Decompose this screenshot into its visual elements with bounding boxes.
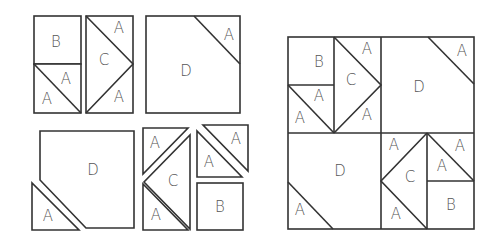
label-a: A (150, 134, 160, 152)
label-b: B (314, 53, 324, 71)
label-a: A (295, 109, 305, 127)
piece-geese-rect (86, 16, 133, 113)
assembled-block: B A A A C A A D A D A C A A (288, 37, 474, 229)
unit-flying-geese-bottom: A C A (143, 128, 190, 230)
label-b: B (215, 198, 225, 216)
label-a: A (391, 205, 401, 223)
label-a: A (314, 87, 324, 105)
label-a: A (437, 157, 447, 175)
label-a: A (362, 106, 372, 124)
label-c: C (99, 51, 109, 69)
unit-b-hst-top: B A A (34, 16, 81, 113)
label-a: A (204, 153, 214, 171)
label-a: A (114, 19, 124, 37)
label-a: A (42, 90, 52, 108)
label-a: A (224, 26, 234, 44)
unit-flying-geese-top: A C A (86, 16, 133, 113)
label-c: C (168, 172, 178, 190)
label-d: D (334, 162, 346, 180)
label-b: B (51, 33, 61, 51)
unit-d-corner-bottom: D A (32, 131, 134, 230)
label-a: A (231, 130, 241, 148)
quilt-diagram: B A A A C A A D D A (0, 0, 494, 248)
label-a: A (455, 137, 465, 155)
label-c: C (346, 71, 356, 89)
label-a: A (61, 70, 71, 88)
label-d: D (180, 62, 192, 80)
label-a: A (114, 88, 124, 106)
label-a: A (295, 201, 305, 219)
exploded-pieces: B A A A C A A D D A (32, 16, 248, 230)
unit-hst-b-bottom: A A B (197, 125, 248, 230)
label-d: D (413, 78, 425, 96)
label-a: A (362, 40, 372, 58)
unit-d-corner-top: A D (146, 16, 240, 113)
label-a: A (151, 206, 161, 224)
label-d: D (87, 161, 99, 179)
label-a: A (389, 136, 399, 154)
label-a: A (457, 42, 467, 60)
label-a: A (43, 207, 53, 225)
label-c: C (405, 168, 415, 186)
label-b: B (446, 196, 456, 214)
